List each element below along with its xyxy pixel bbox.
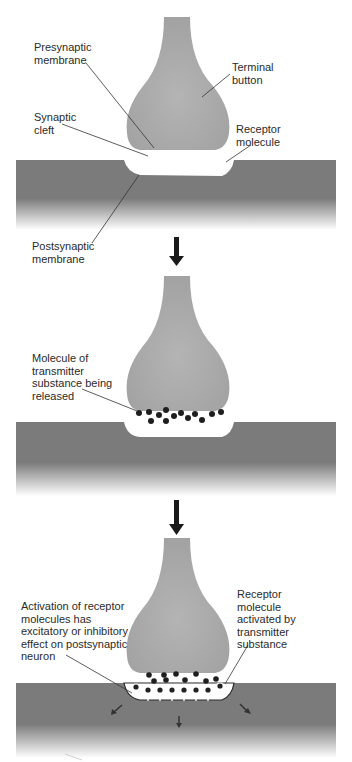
- label-terminal-button: Terminal button: [232, 61, 274, 86]
- down-arrow-1: [169, 237, 184, 266]
- synaptic-cleft: [124, 422, 234, 437]
- label-presynaptic-membrane: Presynaptic membrane: [34, 41, 91, 66]
- label-receptor-molecule: Receptor molecule: [236, 123, 281, 148]
- label-synaptic-cleft: Synaptic cleft: [34, 111, 76, 136]
- label-receptor-activated: Receptor molecule activated by transmitt…: [237, 588, 296, 651]
- label-postsynaptic-membrane: Postsynaptic membrane: [32, 240, 94, 265]
- label-receptor-activation-effect: Activation of receptor molecules has exc…: [21, 600, 128, 663]
- terminal-button: [127, 17, 230, 150]
- terminal-button: [127, 538, 230, 673]
- free-transmitter-molecules: [146, 671, 219, 684]
- synaptic-cleft: [124, 160, 234, 176]
- label-transmitter-molecule: Molecule of transmitter substance being …: [32, 352, 112, 402]
- terminal-button: [127, 276, 230, 411]
- down-arrow-2: [169, 500, 184, 535]
